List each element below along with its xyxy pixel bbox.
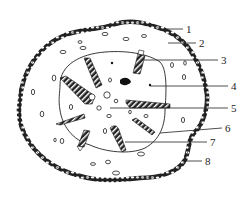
stele-boundary [59, 52, 166, 152]
stem-cross-section-figure: 1 2 3 4 5 6 7 8 [0, 0, 250, 200]
label-3: 3 [221, 54, 227, 66]
label-8: 8 [205, 155, 211, 167]
labels: 1 2 3 4 5 6 7 8 [186, 23, 237, 167]
label-1: 1 [186, 23, 192, 35]
label-2: 2 [199, 37, 205, 49]
diagram-canvas: 1 2 3 4 5 6 7 8 [0, 0, 250, 200]
label-4: 4 [231, 80, 237, 92]
vascular-bundles [56, 50, 170, 152]
label-5: 5 [231, 102, 237, 114]
epidermis-layer [19, 22, 207, 180]
leader-6 [160, 128, 222, 133]
label-7: 7 [210, 136, 216, 148]
label-6: 6 [225, 122, 231, 134]
